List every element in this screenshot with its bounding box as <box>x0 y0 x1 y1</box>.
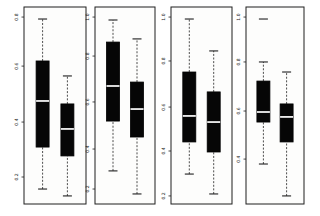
axis-tick-label: 0.2 <box>15 173 20 180</box>
panel-4-frame <box>246 7 304 204</box>
axis-tick-label: 0.2 <box>162 192 167 199</box>
panel-3-frame <box>171 7 232 204</box>
axis-tick-label: 0.6 <box>237 107 242 114</box>
axis-tick-label: 1.0 <box>86 13 91 20</box>
axis-tick-label: 0.2 <box>86 185 91 192</box>
axis-tick-label: 0.4 <box>237 155 242 162</box>
boxplot-chart: 0.80.60.40.21.00.80.60.40.21.00.80.60.40… <box>0 0 320 216</box>
axis-tick-label: 0.4 <box>86 145 91 152</box>
axis-tick-label: 1.0 <box>237 13 242 20</box>
axis-tick-label: 0.6 <box>15 62 20 69</box>
axis-tick-label: 0.6 <box>86 98 91 105</box>
box <box>257 81 270 122</box>
box <box>36 61 49 147</box>
box <box>107 42 120 121</box>
axis-tick-label: 1.0 <box>162 13 167 20</box>
boxplot-figure: 0.80.60.40.21.00.80.60.40.21.00.80.60.40… <box>0 0 320 216</box>
box <box>183 72 196 142</box>
axis-tick-label: 0.8 <box>15 13 20 20</box>
axis-tick-label: 0.6 <box>162 103 167 110</box>
box <box>61 104 74 156</box>
box <box>280 104 293 142</box>
panel-2-frame <box>95 7 155 204</box>
axis-tick-label: 0.4 <box>162 147 167 154</box>
axis-tick-label: 0.4 <box>15 118 20 125</box>
axis-tick-label: 0.8 <box>237 58 242 65</box>
panel-1-frame <box>24 7 86 204</box>
axis-tick-label: 0.8 <box>86 52 91 59</box>
axis-tick-label: 0.8 <box>162 57 167 64</box>
